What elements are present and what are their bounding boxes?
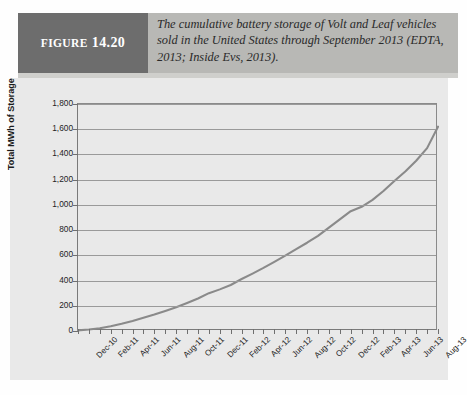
x-tick-mark xyxy=(405,329,406,334)
x-tick-mark xyxy=(89,329,90,334)
x-tick-mark xyxy=(143,329,144,334)
figure-label-box: FIGURE 14.20 xyxy=(18,13,148,73)
x-tick-mark xyxy=(187,329,188,334)
y-tick-mark xyxy=(73,104,78,105)
x-tick-label: Dec-10 xyxy=(95,335,120,360)
x-tick-mark xyxy=(253,329,254,334)
x-tick-label: Apr-11 xyxy=(138,335,161,358)
gridline xyxy=(78,154,436,155)
gridline xyxy=(78,281,436,282)
x-tick-mark xyxy=(329,329,330,334)
x-tick-mark xyxy=(427,329,428,334)
x-tick-mark xyxy=(231,329,232,334)
y-tick-label: 0 xyxy=(68,325,73,335)
x-tick-mark xyxy=(78,329,79,334)
chart-panel: Total MWh of Storage 02004006008001,0001… xyxy=(10,78,448,380)
x-tick-label: Jun-13 xyxy=(422,335,446,359)
x-tick-mark xyxy=(220,329,221,334)
x-tick-mark xyxy=(416,329,417,334)
y-tick-label: 1,600 xyxy=(52,123,73,133)
data-series-line xyxy=(78,104,438,331)
y-tick-mark xyxy=(73,306,78,307)
x-tick-mark xyxy=(242,329,243,334)
x-tick-mark xyxy=(383,329,384,334)
x-tick-label: Apr-13 xyxy=(400,335,424,359)
x-tick-mark xyxy=(176,329,177,334)
plot-area xyxy=(77,103,437,330)
y-tick-label: 800 xyxy=(59,224,73,234)
x-axis-labels: Dec-10Feb-11Apr-11Jun-11Aug-11Oct-11Dec-… xyxy=(77,335,437,379)
y-tick-mark xyxy=(73,180,78,181)
x-tick-label: Aug-12 xyxy=(313,335,338,360)
x-tick-label: Feb-11 xyxy=(116,335,140,359)
x-tick-mark xyxy=(394,329,395,334)
x-tick-mark xyxy=(198,329,199,334)
figure-caption: The cumulative battery storage of Volt a… xyxy=(157,16,453,65)
x-tick-mark xyxy=(296,329,297,334)
x-tick-label: Oct-11 xyxy=(203,335,226,358)
x-tick-mark xyxy=(111,329,112,334)
x-tick-mark xyxy=(122,329,123,334)
x-tick-mark xyxy=(438,329,439,334)
gridline xyxy=(78,205,436,206)
y-axis-labels: 02004006008001,0001,2001,4001,6001,800 xyxy=(10,103,73,330)
y-tick-label: 1,400 xyxy=(52,148,73,158)
y-tick-label: 200 xyxy=(59,300,73,310)
gridline xyxy=(78,129,436,130)
x-tick-label: Aug-11 xyxy=(182,335,206,359)
x-tick-mark xyxy=(351,329,352,334)
x-tick-mark xyxy=(154,329,155,334)
y-tick-mark xyxy=(73,255,78,256)
y-tick-mark xyxy=(73,230,78,231)
gridline xyxy=(78,230,436,231)
x-tick-mark xyxy=(362,329,363,334)
x-tick-mark xyxy=(307,329,308,334)
x-tick-mark xyxy=(274,329,275,334)
x-tick-label: Aug-13 xyxy=(444,335,467,360)
x-tick-mark xyxy=(373,329,374,334)
series-path xyxy=(78,127,438,331)
gridline xyxy=(78,255,436,256)
x-tick-mark xyxy=(100,329,101,334)
figure-label-word: FIGURE xyxy=(41,37,88,49)
figure-container: FIGURE 14.20 The cumulative battery stor… xyxy=(0,0,467,395)
x-tick-label: Jun-11 xyxy=(160,335,183,358)
x-tick-label: Dec-12 xyxy=(356,335,381,360)
figure-number: 14.20 xyxy=(92,35,126,50)
gridline xyxy=(78,306,436,307)
gridline xyxy=(78,180,436,181)
x-tick-mark xyxy=(133,329,134,334)
x-tick-mark xyxy=(340,329,341,334)
y-tick-label: 1,000 xyxy=(52,199,73,209)
x-tick-label: Feb-12 xyxy=(247,335,272,360)
x-tick-mark xyxy=(165,329,166,334)
y-tick-label: 400 xyxy=(59,275,73,285)
y-tick-mark xyxy=(73,154,78,155)
y-tick-label: 600 xyxy=(59,249,73,259)
x-tick-mark xyxy=(263,329,264,334)
x-tick-label: Oct-12 xyxy=(334,335,358,359)
x-tick-label: Feb-13 xyxy=(378,335,403,360)
gridline xyxy=(78,104,436,105)
x-tick-label: Apr-12 xyxy=(269,335,293,359)
x-tick-mark xyxy=(285,329,286,334)
x-tick-label: Dec-11 xyxy=(225,335,249,359)
y-tick-label: 1,800 xyxy=(52,98,73,108)
y-tick-label: 1,200 xyxy=(52,174,73,184)
figure-label: FIGURE 14.20 xyxy=(41,35,126,51)
x-tick-mark xyxy=(209,329,210,334)
y-tick-mark xyxy=(73,129,78,130)
x-tick-mark xyxy=(318,329,319,334)
y-tick-mark xyxy=(73,205,78,206)
y-tick-mark xyxy=(73,281,78,282)
x-tick-label: Jun-12 xyxy=(291,335,315,359)
